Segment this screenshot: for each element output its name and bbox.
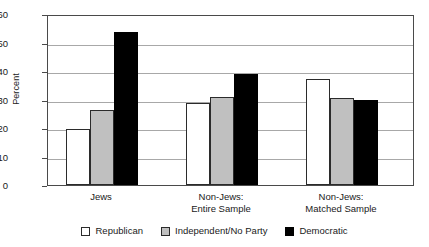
independent-swatch-icon bbox=[161, 227, 170, 236]
y-tick-label-40: 40 bbox=[0, 67, 8, 76]
bar-chart: Percent 6050403020100 JewsNon-Jews:Entir… bbox=[0, 0, 429, 247]
bar-republican-group-1 bbox=[66, 129, 90, 185]
x-axis-group-label-3: Non-Jews:Matched Sample bbox=[281, 191, 401, 214]
legend-item-democratic: Democratic bbox=[285, 226, 347, 236]
x-axis-label-line: Non-Jews: bbox=[161, 191, 281, 203]
y-tick-label-10: 10 bbox=[0, 153, 8, 162]
y-tick-label-30: 30 bbox=[0, 96, 8, 105]
bar-democratic-group-2 bbox=[234, 74, 258, 185]
republican-swatch-icon bbox=[81, 227, 90, 236]
bar-independent-group-3 bbox=[330, 98, 354, 185]
bar-democratic-group-1 bbox=[114, 32, 138, 185]
bar-republican-group-2 bbox=[186, 103, 210, 185]
gridline-50 bbox=[48, 45, 413, 46]
x-axis-label-line: Non-Jews: bbox=[281, 191, 401, 203]
y-tick-label-0: 0 bbox=[0, 181, 8, 190]
x-axis-label-line: Matched Sample bbox=[281, 203, 401, 215]
democratic-swatch-icon bbox=[285, 227, 294, 236]
legend-label-democratic: Democratic bbox=[299, 226, 347, 236]
gridline-40 bbox=[48, 73, 413, 74]
bar-democratic-group-3 bbox=[354, 100, 378, 185]
x-axis-label-line: Jews bbox=[41, 191, 161, 203]
y-tick-label-20: 20 bbox=[0, 124, 8, 133]
y-tick-label-50: 50 bbox=[0, 39, 8, 48]
legend-label-independent: Independent/No Party bbox=[175, 226, 267, 236]
y-axis-title: Percent bbox=[11, 49, 21, 129]
bar-independent-group-1 bbox=[90, 110, 114, 185]
x-axis-label-line: Entire Sample bbox=[161, 203, 281, 215]
legend-item-independent: Independent/No Party bbox=[161, 226, 267, 236]
bar-republican-group-3 bbox=[306, 79, 330, 185]
y-tick-label-60: 60 bbox=[0, 10, 8, 19]
legend-label-republican: Republican bbox=[95, 226, 143, 236]
plot-area bbox=[47, 15, 414, 186]
chart-legend: Republican Independent/No Party Democrat… bbox=[0, 226, 429, 236]
legend-item-republican: Republican bbox=[81, 226, 143, 236]
bar-independent-group-2 bbox=[210, 97, 234, 185]
x-axis-group-label-2: Non-Jews:Entire Sample bbox=[161, 191, 281, 214]
x-axis-group-label-1: Jews bbox=[41, 191, 161, 203]
y-tick-mark-0 bbox=[42, 186, 47, 187]
